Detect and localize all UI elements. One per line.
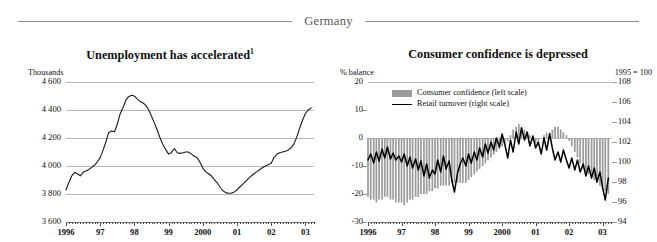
y-axis-right-tick-dash: [612, 122, 617, 123]
y-axis-right-tick-label: 94: [618, 217, 627, 226]
unemployment-line-series: [66, 82, 314, 222]
x-axis-label: 99: [464, 228, 473, 237]
left-chart-title: Unemployment has accelerated1: [28, 47, 312, 63]
header-rule-right: [365, 21, 639, 22]
consumer-confidence-plot-area: -30-20-100102094969810010210410610819969…: [368, 82, 611, 222]
consumer-confidence-series: [368, 82, 611, 222]
y-axis-right-tick-dash: [612, 162, 617, 163]
y-axis-right-tick-label: 106: [618, 97, 631, 106]
header-rule-left: [18, 21, 292, 22]
y-axis-tick-label: 4 000: [42, 161, 61, 170]
x-axis-line: [66, 222, 314, 223]
y-axis-right-tick-dash: [612, 182, 617, 183]
x-axis-minor-tick: [611, 222, 612, 224]
y-axis-tick-label: 3 800: [42, 189, 61, 198]
x-axis-label: 02: [565, 228, 574, 237]
y-axis-right-tick-label: 100: [618, 157, 631, 166]
y-axis-tick-label: 3 600: [42, 217, 61, 226]
y-axis-right-tick-dash: [612, 82, 617, 83]
section-header: Germany: [18, 12, 639, 30]
left-chart-title-text: Unemployment has accelerated: [86, 48, 250, 62]
y-axis-left-tick-label: 0: [359, 133, 363, 142]
x-axis-label: 01: [531, 228, 540, 237]
y-axis-left-tick-label: 20: [354, 77, 363, 86]
x-axis-label: 98: [431, 228, 440, 237]
x-axis-label: 2000: [494, 228, 511, 237]
y-axis-right-tick-label: 108: [618, 77, 631, 86]
y-axis-right-tick-dash: [612, 202, 617, 203]
x-axis-label: 97: [96, 228, 105, 237]
y-axis-left-tick-label: -10: [352, 161, 363, 170]
y-axis-right-tick-dash: [612, 102, 617, 103]
page-title: Germany: [300, 15, 357, 28]
x-axis-label: 97: [397, 228, 406, 237]
y-axis-tick-label: 4 600: [42, 77, 61, 86]
x-axis-label: 01: [233, 228, 242, 237]
y-axis-left-tick-label: 10: [354, 105, 363, 114]
y-axis-tick-label: 4 200: [42, 133, 61, 142]
y-axis-right-tick-label: 104: [618, 117, 631, 126]
x-axis-label: 1996: [359, 228, 376, 237]
consumer-confidence-chart: % balance 1995 = 100 Consumer confidence…: [340, 68, 652, 236]
x-axis-label: 2000: [194, 228, 211, 237]
unemployment-plot-area: 3 6003 8004 0004 2004 4004 6001996979899…: [66, 82, 314, 222]
x-axis-label: 98: [130, 228, 139, 237]
y-axis-right-tick-label: 98: [618, 177, 627, 186]
y-axis-tick-label: 4 400: [42, 105, 61, 114]
unemployment-chart: Thousands 3 6003 8004 0004 2004 4004 600…: [18, 68, 323, 236]
y-axis-left-tick-label: -30: [352, 217, 363, 226]
x-axis-label: 03: [301, 228, 310, 237]
figure-page: Germany Unemployment has accelerated1 Co…: [0, 0, 657, 242]
x-axis-label: 02: [267, 228, 276, 237]
x-axis-label: 1996: [57, 228, 74, 237]
y-axis-right-tick-label: 102: [618, 137, 631, 146]
y-axis-right-tick-label: 96: [618, 197, 627, 206]
y-axis-left-tick-label: -20: [352, 189, 363, 198]
x-axis-label: 99: [164, 228, 173, 237]
x-axis-label: 03: [598, 228, 607, 237]
left-chart-title-footnote: 1: [250, 47, 254, 56]
y-axis-right-tick-dash: [612, 142, 617, 143]
x-axis-line: [368, 222, 611, 223]
y-axis-right-tick-dash: [612, 222, 617, 223]
right-chart-title: Consumer confidence is depressed: [356, 47, 640, 62]
x-axis-minor-tick: [314, 222, 315, 224]
